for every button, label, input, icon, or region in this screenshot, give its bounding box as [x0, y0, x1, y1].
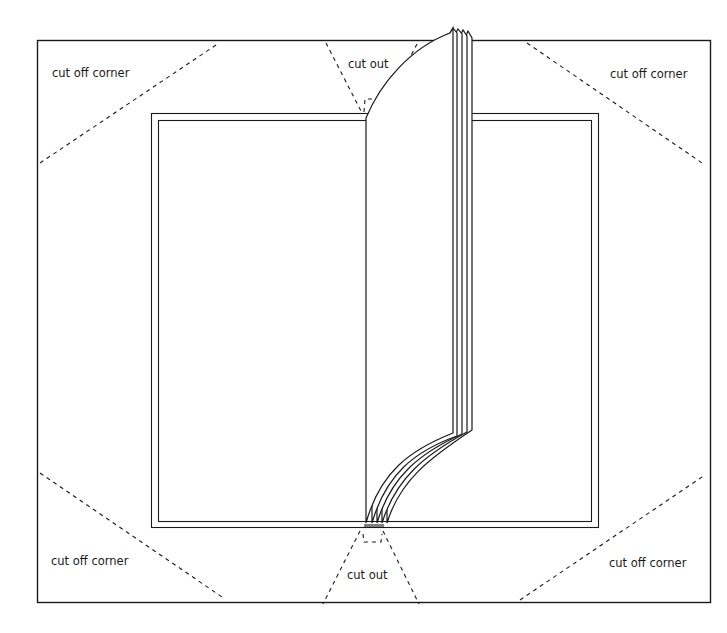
- label-top-left: cut off corner: [52, 66, 130, 80]
- turning-pages: [366, 28, 472, 523]
- cut-line-bottom-left: [40, 473, 225, 599]
- label-top-cut-out: cut out: [348, 57, 389, 71]
- label-bottom-left: cut off corner: [51, 554, 129, 568]
- cut-line-top-left: [40, 43, 219, 163]
- label-top-right: cut off corner: [610, 67, 688, 81]
- label-bottom-right: cut off corner: [609, 556, 687, 570]
- book-cover-diagram: cut off corner cut off corner cut off co…: [0, 0, 727, 633]
- spine-base: [364, 525, 384, 527]
- cut-line-bottom-right: [520, 475, 705, 600]
- label-bottom-cut-out: cut out: [347, 568, 388, 582]
- cut-line-top-right: [527, 43, 705, 165]
